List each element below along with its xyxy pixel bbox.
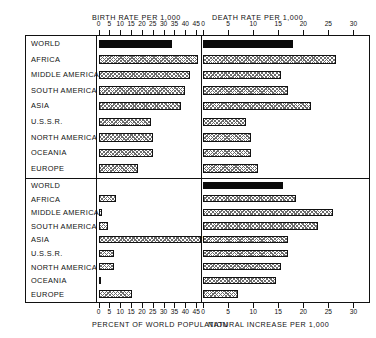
bar-birth-0 [99, 40, 173, 49]
bar-birth-5 [99, 118, 151, 127]
axis-tick-label: 30 [160, 20, 167, 27]
row-labels-bottom: WORLDAFRICAMIDDLE AMERICASOUTH AMERICAAS… [25, 178, 96, 303]
bar-nat-0 [203, 182, 283, 189]
row-label-bottom-3: SOUTH AMERICA [31, 222, 94, 231]
bar-birth-8 [99, 164, 138, 173]
axis-tick-label: 0 [201, 308, 205, 315]
axis-tick-label: 10 [117, 20, 124, 27]
bar-death-5 [203, 118, 246, 127]
bar-death-7 [203, 149, 251, 158]
bar-pct-1 [99, 195, 116, 202]
bar-nat-1 [203, 195, 296, 202]
axis-tick-label: 10 [249, 20, 256, 27]
bar-pct-3 [99, 222, 109, 229]
bar-nat-6 [203, 263, 281, 270]
bar-nat-7 [203, 277, 276, 284]
bar-birth-7 [99, 149, 153, 158]
bar-death-2 [203, 71, 281, 80]
axis-tick-label: 15 [275, 308, 282, 315]
bar-pct-4 [99, 236, 201, 243]
row-label-top-6: NORTH AMERICA [31, 133, 94, 142]
row-label-bottom-2: MIDDLE AMERICA [31, 208, 94, 217]
figure-canvas: BIRTH RATE PER 1,000 DEATH RATE PER 1,00… [0, 0, 376, 338]
bar-pct-8 [99, 290, 133, 297]
axis-tick-label: 5 [108, 20, 112, 27]
row-label-bottom-6: NORTH AMERICA [31, 263, 94, 272]
axis-tick-label: 45 [192, 20, 199, 27]
row-label-bottom-7: OCEANIA [31, 276, 94, 285]
bar-death-3 [203, 86, 288, 95]
birth-rate-plot [96, 35, 201, 178]
row-label-bottom-4: ASIA [31, 235, 94, 244]
axis-tick-label: 10 [249, 308, 256, 315]
bar-birth-2 [99, 71, 190, 80]
bar-pct-6 [99, 263, 114, 270]
axis-tick-label: 30 [350, 308, 357, 315]
axis-tick-label: 30 [350, 20, 357, 27]
row-label-bottom-5: U.S.S.R. [31, 249, 94, 258]
axis-tick-label: 0 [201, 20, 205, 27]
row-label-bottom-1: AFRICA [31, 195, 94, 204]
natural-increase-plot [201, 178, 370, 303]
axis-tick-label: 25 [325, 20, 332, 27]
row-labels-top: WORLDAFRICAMIDDLE AMERICASOUTH AMERICAAS… [25, 35, 96, 178]
row-label-top-0: WORLD [31, 39, 94, 48]
row-label-top-1: AFRICA [31, 55, 94, 64]
row-label-bottom-8: EUROPE [31, 290, 94, 299]
bar-death-8 [203, 164, 258, 173]
bar-death-4 [203, 102, 311, 111]
bar-birth-3 [99, 86, 186, 95]
birth-rate-axis-title: BIRTH RATE PER 1,000 [92, 13, 181, 22]
axis-tick-label: 15 [127, 20, 134, 27]
natural-increase-axis-title: NATURAL INCREASE PER 1,000 [208, 320, 329, 329]
axis-tick-label: 20 [300, 308, 307, 315]
bar-nat-2 [203, 209, 333, 216]
row-label-bottom-0: WORLD [31, 181, 94, 190]
axis-tick-label: 5 [226, 20, 230, 27]
axis-tick-label: 5 [226, 308, 230, 315]
bar-nat-8 [203, 290, 238, 297]
row-label-top-8: EUROPE [31, 164, 94, 173]
bar-nat-5 [203, 250, 288, 257]
natural-increase-ruler: 051015202530 [0, 303, 376, 314]
axis-tick-label: 25 [149, 20, 156, 27]
axis-tick-label: 35 [171, 20, 178, 27]
bar-birth-1 [99, 55, 199, 64]
row-label-top-5: U.S.S.R. [31, 117, 94, 126]
axis-tick-label: 20 [138, 20, 145, 27]
bar-birth-6 [99, 133, 153, 142]
bar-death-1 [203, 55, 336, 64]
row-label-top-4: ASIA [31, 101, 94, 110]
death-rate-plot [201, 35, 370, 178]
percent-population-plot: 56 [96, 178, 201, 303]
bar-pct-5 [99, 250, 114, 257]
bar-pct-2 [99, 209, 102, 216]
axis-tick-label: 40 [182, 20, 189, 27]
row-label-top-2: MIDDLE AMERICA [31, 70, 94, 79]
axis-tick-label: 20 [300, 20, 307, 27]
bar-death-6 [203, 133, 251, 142]
bar-nat-4 [203, 236, 288, 243]
bar-nat-3 [203, 222, 318, 229]
row-label-top-7: OCEANIA [31, 148, 94, 157]
axis-tick-label: 25 [325, 308, 332, 315]
row-label-top-3: SOUTH AMERICA [31, 86, 94, 95]
axis-tick-label: 0 [97, 20, 101, 27]
bar-pct-7 [99, 277, 101, 284]
axis-tick-label: 15 [275, 20, 282, 27]
bar-death-0 [203, 40, 293, 49]
bar-birth-4 [99, 102, 181, 111]
